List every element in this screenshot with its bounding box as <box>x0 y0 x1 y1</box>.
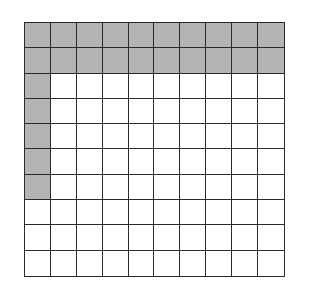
grid-cell <box>180 175 206 200</box>
grid-cell <box>51 200 77 225</box>
grid-cell <box>258 251 284 276</box>
grid-cell <box>154 251 180 276</box>
grid-cell <box>51 124 77 149</box>
grid-cell <box>129 74 155 99</box>
grid-cell <box>258 200 284 225</box>
shaded-cell <box>103 48 129 73</box>
grid-cell <box>77 175 103 200</box>
grid-cell <box>258 225 284 250</box>
grid-cell <box>258 74 284 99</box>
grid-cell <box>232 149 258 174</box>
grid-cell <box>180 149 206 174</box>
shaded-cell <box>51 23 77 48</box>
grid-cell <box>154 149 180 174</box>
shaded-cell <box>180 48 206 73</box>
shaded-cell <box>25 124 51 149</box>
shaded-cell <box>232 23 258 48</box>
grid-cell <box>180 251 206 276</box>
grid-cell <box>232 99 258 124</box>
grid-cell <box>154 74 180 99</box>
grid-cell <box>206 99 232 124</box>
shaded-cell <box>51 48 77 73</box>
grid-cell <box>206 225 232 250</box>
grid-cell <box>154 200 180 225</box>
grid-cell <box>206 74 232 99</box>
grid-cell <box>77 251 103 276</box>
grid-cell <box>206 175 232 200</box>
grid-cell <box>103 225 129 250</box>
grid-cell <box>51 225 77 250</box>
grid-cell <box>180 200 206 225</box>
shaded-cell <box>25 149 51 174</box>
grid-cell <box>129 99 155 124</box>
grid-cell <box>232 175 258 200</box>
grid-cell <box>154 175 180 200</box>
grid-cell <box>232 251 258 276</box>
grid-cell <box>77 99 103 124</box>
shaded-cell <box>258 48 284 73</box>
grid-cell <box>180 74 206 99</box>
shaded-cell <box>180 23 206 48</box>
grid-cell <box>129 251 155 276</box>
grid-cell <box>129 149 155 174</box>
grid-cell <box>77 74 103 99</box>
grid-cell <box>25 251 51 276</box>
grid-cell <box>51 99 77 124</box>
grid-cell <box>77 124 103 149</box>
grid-cell <box>25 200 51 225</box>
grid-cell <box>129 200 155 225</box>
shaded-cell <box>25 175 51 200</box>
grid-cell <box>258 149 284 174</box>
shaded-cell <box>129 23 155 48</box>
grid-cell <box>129 124 155 149</box>
grid-cell <box>129 175 155 200</box>
grid-cell <box>25 225 51 250</box>
shaded-cell <box>129 48 155 73</box>
grid-cell <box>258 175 284 200</box>
grid-cell <box>129 225 155 250</box>
grid-cell <box>51 149 77 174</box>
shaded-cell <box>154 48 180 73</box>
grid-cell <box>180 124 206 149</box>
shaded-cell <box>25 23 51 48</box>
grid-cell <box>206 200 232 225</box>
shaded-cell <box>25 48 51 73</box>
grid-cell <box>232 200 258 225</box>
grid-cell <box>232 74 258 99</box>
grid-cell <box>77 200 103 225</box>
shaded-cell <box>154 23 180 48</box>
grid-cell <box>103 200 129 225</box>
shaded-cell <box>25 99 51 124</box>
grid-cell <box>258 99 284 124</box>
grid-cell <box>103 124 129 149</box>
grid-cell <box>51 251 77 276</box>
shaded-cell <box>258 23 284 48</box>
shaded-cell <box>206 23 232 48</box>
shaded-cell <box>232 48 258 73</box>
grid-cell <box>154 99 180 124</box>
shaded-cell <box>25 74 51 99</box>
shaded-cell <box>77 48 103 73</box>
grid-cell <box>77 149 103 174</box>
grid-cell <box>51 175 77 200</box>
shaded-cell <box>103 23 129 48</box>
shaded-cell <box>206 48 232 73</box>
grid-cell <box>232 225 258 250</box>
grid-cell <box>206 124 232 149</box>
grid-cell <box>103 251 129 276</box>
grid-cell <box>180 225 206 250</box>
grid-cell <box>103 99 129 124</box>
grid-cell <box>206 149 232 174</box>
grid-cell <box>103 149 129 174</box>
grid-cell <box>180 99 206 124</box>
grid-cell <box>103 74 129 99</box>
shaded-cell <box>77 23 103 48</box>
grid-cell <box>103 175 129 200</box>
grid-cell <box>51 74 77 99</box>
grid-cell <box>232 124 258 149</box>
grid-cell <box>154 124 180 149</box>
hundred-grid <box>24 22 285 277</box>
grid-cell <box>154 225 180 250</box>
grid-cell <box>77 225 103 250</box>
grid-cell <box>206 251 232 276</box>
